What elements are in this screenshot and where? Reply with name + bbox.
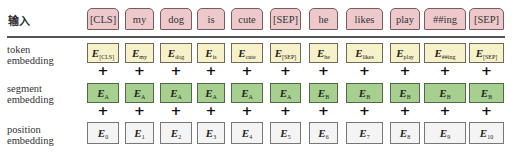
plus-icon: +	[130, 105, 150, 117]
input-token: likes	[346, 8, 383, 30]
plus-icon: +	[477, 105, 497, 117]
segment-embedding-cell: EB	[469, 83, 504, 103]
embedding-subscript: 10	[487, 134, 493, 140]
position-embedding-cell: E7	[346, 122, 383, 144]
position-embedding-cell: E4	[231, 122, 263, 144]
embedding-subscript: 1	[142, 134, 145, 140]
embedding-symbol: EB	[481, 87, 492, 100]
embedding-symbol: EB	[439, 87, 450, 100]
input-token: my	[125, 8, 154, 30]
segment-embedding-cell: EA	[231, 83, 263, 103]
plus-icon: +	[276, 65, 296, 77]
segment-embedding-cell: EA	[87, 83, 119, 103]
token-embedding-cell: E[CLS]	[87, 43, 119, 63]
token-embedding-cell: Elikes	[346, 43, 383, 63]
embedding-symbol: E9	[440, 127, 450, 140]
embedding-symbol: EA	[134, 87, 146, 100]
token-embedding-cell: E##ing	[424, 43, 466, 63]
token-embedding-cell: Ehe	[309, 43, 338, 63]
segment-embedding-cell: EB	[390, 83, 420, 103]
plus-icon: +	[166, 65, 186, 77]
token-embedding-cell: Edog	[160, 43, 192, 63]
embedding-symbol: EA	[170, 87, 182, 100]
plus-icon: +	[355, 65, 375, 77]
embedding-symbol: E1	[134, 127, 144, 140]
input-token: dog	[160, 8, 192, 30]
embedding-subscript: he	[324, 54, 330, 60]
position-embedding-cell: E10	[469, 122, 504, 144]
embedding-symbol: E4	[242, 127, 252, 140]
embedding-subscript: A	[249, 94, 253, 100]
embedding-subscript: 3	[213, 134, 216, 140]
embedding-subscript: 4	[249, 134, 252, 140]
embedding-symbol: EB	[318, 87, 329, 100]
embedding-symbol: Emy	[132, 47, 147, 60]
plus-icon: +	[395, 105, 415, 117]
position-embedding-cell: E1	[125, 122, 154, 144]
embedding-symbol: E0	[98, 127, 108, 140]
embedding-subscript: B	[447, 94, 451, 100]
embedding-symbol: Edog	[168, 47, 184, 60]
plus-icon: +	[435, 65, 455, 77]
embedding-subscript: my	[139, 54, 147, 60]
embedding-subscript: 0	[105, 134, 108, 140]
plus-icon: +	[355, 105, 375, 117]
embedding-subscript: 8	[407, 134, 410, 140]
embedding-subscript: A	[178, 94, 182, 100]
embedding-subscript: play	[404, 54, 414, 60]
embedding-symbol: E[SEP]	[275, 47, 297, 60]
token-embedding-cell: Eis	[197, 43, 225, 63]
embedding-subscript: cute	[246, 54, 256, 60]
token-embedding-cell: Eplay	[390, 43, 420, 63]
token-embedding-cell: E[SEP]	[469, 43, 504, 63]
token-embedding-cell: E[SEP]	[270, 43, 301, 63]
position-embedding-cell: E8	[390, 122, 420, 144]
embedding-symbol: E8	[400, 127, 410, 140]
segment-embedding-cell: EA	[197, 83, 225, 103]
segment-embedding-label: segment embedding	[7, 83, 54, 105]
embedding-symbol: EA	[280, 87, 292, 100]
embedding-subscript: [CLS]	[99, 54, 114, 60]
plus-icon: +	[93, 105, 113, 117]
embedding-subscript: 6	[326, 134, 329, 140]
plus-icon: +	[314, 65, 334, 77]
embedding-symbol: E3	[206, 127, 216, 140]
embedding-symbol: EA	[205, 87, 217, 100]
embedding-subscript: A	[213, 94, 217, 100]
input-token: is	[197, 8, 225, 30]
segment-embedding-cell: EB	[309, 83, 338, 103]
segment-embedding-cell: EA	[125, 83, 154, 103]
embedding-symbol: Eis	[205, 47, 216, 60]
embedding-symbol: EB	[399, 87, 410, 100]
embedding-subscript: A	[141, 94, 145, 100]
embedding-subscript: A	[287, 94, 291, 100]
input-row-label: 输入	[8, 12, 30, 28]
embedding-subscript: B	[407, 94, 411, 100]
embedding-symbol: Ecute	[238, 47, 255, 60]
position-embedding-cell: E5	[270, 122, 301, 144]
segment-embedding-cell: EB	[424, 83, 466, 103]
token-embedding-cell: Emy	[125, 43, 154, 63]
position-embedding-cell: E2	[160, 122, 192, 144]
position-embedding-cell: E6	[309, 122, 338, 144]
input-token: cute	[231, 8, 263, 30]
input-token: [SEP]	[469, 8, 504, 30]
embedding-subscript: 9	[447, 134, 450, 140]
plus-icon: +	[395, 65, 415, 77]
embedding-symbol: Eplay	[396, 47, 414, 60]
embedding-subscript: B	[325, 94, 329, 100]
embedding-symbol: EA	[97, 87, 109, 100]
embedding-subscript: A	[105, 94, 109, 100]
embedding-symbol: Elikes	[355, 47, 374, 60]
embedding-symbol: E[CLS]	[92, 47, 114, 60]
segment-embedding-cell: EA	[270, 83, 301, 103]
input-token: play	[390, 8, 420, 30]
plus-icon: +	[130, 65, 150, 77]
plus-icon: +	[276, 105, 296, 117]
embedding-symbol: E2	[171, 127, 181, 140]
embedding-subscript: ##ing	[442, 54, 456, 60]
embedding-symbol: E5	[280, 127, 290, 140]
plus-icon: +	[93, 65, 113, 77]
embedding-subscript: [SEP]	[483, 54, 497, 60]
token-embedding-cell: Ecute	[231, 43, 263, 63]
